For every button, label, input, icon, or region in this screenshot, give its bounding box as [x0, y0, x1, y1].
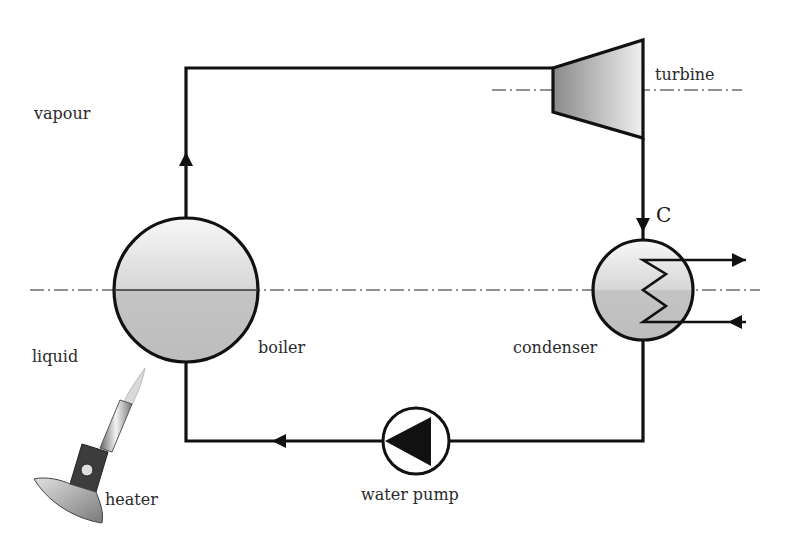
arrow-up-icon — [179, 152, 193, 166]
label-liquid: liquid — [32, 347, 78, 366]
coolant-in-arrow-icon — [728, 315, 742, 329]
label-heater: heater — [105, 490, 158, 509]
water-pump — [383, 408, 449, 474]
label-condenser: condenser — [513, 338, 598, 357]
steam-cycle-diagram: vapour liquid boiler turbine condenser w… — [0, 0, 786, 548]
turbine — [553, 40, 643, 138]
pipe-network — [186, 68, 643, 441]
label-vapour: vapour — [33, 104, 91, 123]
pipe-pump-to-boiler — [186, 362, 383, 441]
label-water-pump: water pump — [361, 485, 459, 504]
label-point-c: C — [656, 203, 671, 227]
arrow-down-icon — [636, 218, 650, 232]
boiler — [114, 218, 258, 362]
label-boiler: boiler — [258, 338, 306, 357]
coolant-out-arrow-icon — [732, 253, 746, 267]
arrow-left-icon — [272, 434, 286, 448]
condenser — [593, 240, 746, 340]
label-turbine: turbine — [655, 65, 715, 84]
